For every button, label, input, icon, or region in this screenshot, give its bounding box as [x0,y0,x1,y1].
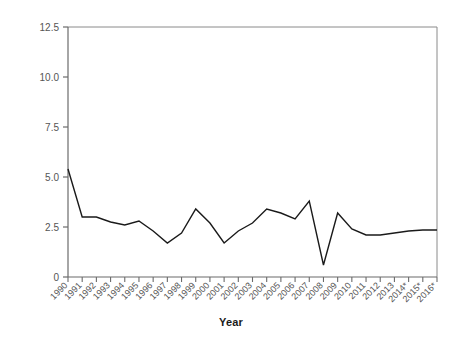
chart-plot-area: 02.55.07.510.012.51990199119921993199419… [0,0,462,342]
y-axis-tick-label: 12.5 [40,22,60,33]
y-axis-tick-label: 10.0 [40,72,60,83]
y-axis-tick-label: 7.5 [45,122,59,133]
data-series-line [68,169,437,265]
x-axis-title: Year [0,316,462,328]
chart-container: Inflation Rate 02.55.07.510.012.51990199… [0,0,462,342]
y-axis-tick-label: 0 [53,272,59,283]
y-axis-tick-label: 5.0 [45,172,59,183]
y-axis-tick-label: 2.5 [45,222,59,233]
plot-frame [68,27,437,277]
